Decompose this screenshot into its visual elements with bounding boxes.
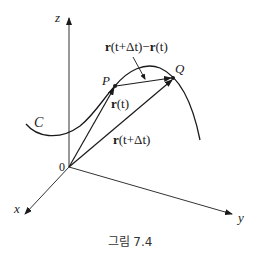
vector-r-t-label: r(t) [111,96,129,111]
vector-difference [116,78,171,86]
vector-r-t-arg: (t) [117,96,129,111]
difference-arg-2: (t) [155,39,167,54]
vector-r-t [69,88,114,167]
point-p [113,84,117,88]
difference-minus: − [142,39,149,54]
point-q [171,76,175,80]
difference-arg-1: (t+Δt) [111,39,143,54]
vector-r-t-dt-arg: (t+Δt) [119,132,151,147]
origin-label: 0 [59,160,65,174]
point-q-label: Q [175,61,185,76]
z-axis-label: z [54,10,60,25]
vector-r-t-dt [69,80,172,167]
difference-label: r(t+Δt)−r(t) [105,39,168,54]
label-pointer-arrow [133,57,145,79]
y-axis-label: y [236,210,244,225]
vector-r-t-dt-label: r(t+Δt) [113,132,150,147]
x-axis [25,167,69,214]
vector-diagram: z x y 0 C P Q r(t) r(t+Δt) r(t+Δt)−r(t) [0,0,260,262]
curve-label: C [34,115,44,130]
x-axis-label: x [13,201,20,216]
point-p-label: P [101,73,110,88]
y-axis [69,167,232,214]
figure-caption: 그림 7.4 [0,232,260,249]
